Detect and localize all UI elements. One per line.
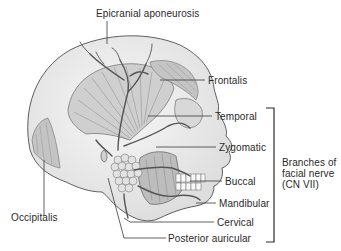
bracket [266, 108, 274, 242]
group-label-facial-nerve: Branches of facial nerve (CN VII) [282, 157, 336, 190]
label-cervical: Cervical [217, 217, 254, 228]
ear [101, 150, 107, 162]
label-temporal: Temporal [215, 111, 257, 122]
label-frontalis: Frontalis [208, 75, 247, 86]
label-epicranial-aponeurosis: Epicranial aponeurosis [96, 8, 199, 19]
label-zygomatic: Zygomatic [219, 142, 266, 153]
group-label-line-1: Branches of [282, 157, 336, 168]
label-posterior-auricular: Posterior auricular [168, 233, 251, 244]
group-label-line-3: (CN VII) [282, 179, 336, 190]
group-label-line-2: facial nerve [282, 168, 336, 179]
label-occipitalis: Occipitalis [11, 212, 58, 223]
label-buccal: Buccal [225, 176, 256, 187]
label-mandibular: Mandibular [219, 198, 269, 209]
